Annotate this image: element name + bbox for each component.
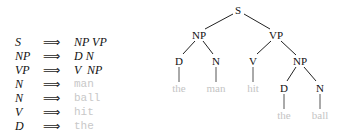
tree-node-v: V — [249, 55, 257, 67]
tree-leaf-the-object: the — [277, 109, 290, 121]
tree-node-d: D — [175, 55, 183, 67]
tree-leaf-the: the — [172, 82, 185, 94]
tree-node-n: N — [212, 55, 220, 67]
tree-leaf-ball: ball — [312, 109, 329, 121]
parse-tree: S NP VP D N V NP D N the man hit the bal… — [0, 0, 339, 138]
tree-node-vp: VP — [269, 29, 283, 41]
tree-node-d-object: D — [280, 82, 288, 94]
tree-node-s: S — [235, 4, 241, 16]
tree-leaf-man: man — [207, 82, 226, 94]
tree-node-np-object: NP — [293, 55, 307, 67]
tree-node-np: NP — [192, 29, 206, 41]
tree-node-n-object: N — [316, 82, 324, 94]
tree-leaf-hit: hit — [247, 82, 259, 94]
